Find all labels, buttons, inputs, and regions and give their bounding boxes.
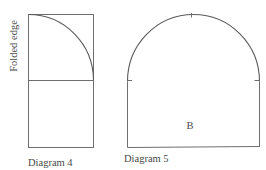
diagram-canvas: Folded edge Diagram 4 B Diagram 5 (0, 0, 266, 170)
diagram-5-arch-arc (128, 15, 260, 82)
diagram-4-caption: Diagram 4 (28, 157, 73, 168)
folded-edge-label: Folded edge (8, 20, 19, 72)
piece-label-b: B (186, 120, 193, 131)
diagram-5: B Diagram 5 (124, 13, 260, 164)
diagram-4: Folded edge Diagram 4 (8, 15, 94, 169)
diagram-5-caption: Diagram 5 (124, 153, 169, 164)
diagram-4-quarter-arc (29, 15, 94, 81)
diagram-5-bottom-edge (128, 147, 260, 148)
